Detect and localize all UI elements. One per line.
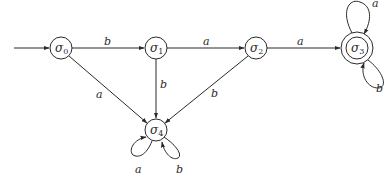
- loop-s4-right: [162, 137, 180, 159]
- label-s1-s2: a: [203, 35, 210, 48]
- label-s1-s4: b: [160, 78, 167, 91]
- label-s3-loop-bottom: b: [376, 82, 383, 95]
- state-s1: σ1: [145, 37, 167, 59]
- state-s4: σ4: [145, 119, 167, 141]
- label-s4-loop-left: a: [135, 163, 142, 176]
- edge-s2-s4: [165, 56, 248, 123]
- loop-s3-top: [347, 1, 370, 34]
- fsa-diagram: σ0 σ1 σ2 σ3 σ4 b a a a b b a b a b: [0, 0, 387, 179]
- label-s3-loop-top: a: [372, 0, 379, 10]
- state-s2: σ2: [245, 37, 267, 59]
- loop-s4-left: [131, 137, 152, 156]
- state-s0: σ0: [50, 37, 72, 59]
- label-s4-loop-right: b: [176, 163, 183, 176]
- label-s2-s4: b: [211, 87, 218, 100]
- label-s2-s3: a: [297, 35, 304, 48]
- edge-s0-s4: [69, 56, 147, 123]
- label-s0-s4: a: [96, 88, 103, 101]
- state-s3-accepting: σ3: [341, 32, 373, 64]
- label-s0-s1: b: [104, 35, 111, 48]
